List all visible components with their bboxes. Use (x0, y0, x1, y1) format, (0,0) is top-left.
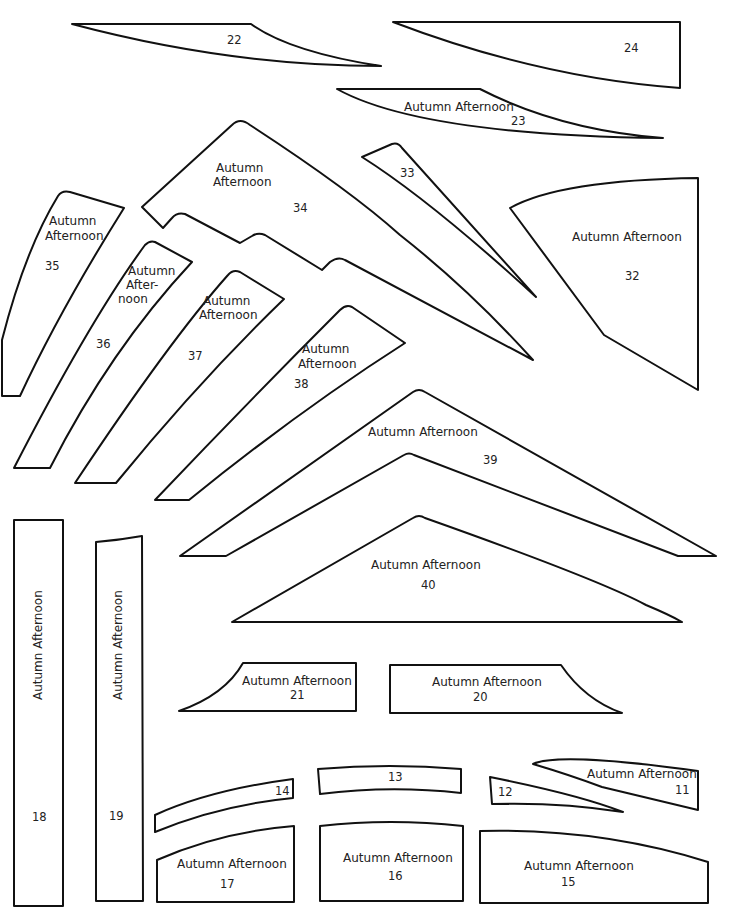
piece-18-number: 18 (32, 810, 47, 824)
piece-36-label-line1: Autumn (128, 264, 175, 278)
piece-23: Autumn Afternoon 23 (337, 89, 663, 138)
piece-36-label-line3: noon (118, 292, 148, 306)
pattern-sheet: 22 24 Autumn Afternoon 23 Autumn Afterno… (0, 0, 731, 918)
piece-14: 14 (155, 779, 293, 832)
piece-37-label-line1: Autumn (203, 294, 250, 308)
piece-34-label-line1: Autumn (216, 161, 263, 175)
piece-32-outline (510, 178, 698, 390)
piece-21: Autumn Afternoon 21 (179, 663, 356, 711)
piece-35-label-line1: Autumn (49, 214, 96, 228)
piece-24-number: 24 (624, 41, 639, 55)
piece-11-label: Autumn Afternoon (587, 767, 697, 781)
piece-15-number: 15 (561, 875, 576, 889)
piece-22: 22 (72, 24, 381, 66)
piece-14-outline (155, 779, 293, 832)
piece-23-label: Autumn Afternoon (404, 100, 514, 114)
piece-38-number: 38 (294, 377, 309, 391)
piece-24: 24 (393, 22, 680, 88)
piece-23-number: 23 (511, 114, 526, 128)
piece-15: Autumn Afternoon 15 (480, 831, 708, 903)
piece-18-outline (14, 520, 63, 906)
piece-16-label: Autumn Afternoon (343, 851, 453, 865)
piece-39-label: Autumn Afternoon (368, 425, 478, 439)
piece-16: Autumn Afternoon 16 (320, 822, 463, 901)
piece-11-number: 11 (675, 783, 690, 797)
piece-38-label-line1: Autumn (302, 342, 349, 356)
piece-19-number: 19 (109, 809, 124, 823)
piece-20-number: 20 (473, 690, 488, 704)
piece-36-number: 36 (96, 337, 111, 351)
piece-40-number: 40 (421, 578, 436, 592)
piece-13: 13 (318, 766, 461, 794)
piece-21-number: 21 (290, 688, 305, 702)
piece-36-label-line2: After- (126, 278, 158, 292)
piece-22-number: 22 (227, 33, 242, 47)
piece-33-number: 33 (400, 166, 415, 180)
piece-37-label-line2: Afternoon (199, 308, 258, 322)
piece-38-label-line2: Afternoon (298, 357, 357, 371)
piece-20-outline (390, 665, 622, 713)
piece-16-number: 16 (388, 869, 403, 883)
piece-35-label-line2: Afternoon (45, 229, 104, 243)
piece-12-number: 12 (498, 785, 513, 799)
piece-13-number: 13 (388, 770, 403, 784)
piece-34-number: 34 (293, 201, 308, 215)
piece-21-label: Autumn Afternoon (242, 674, 352, 688)
piece-34-label-line2: Afternoon (213, 175, 272, 189)
piece-20: Autumn Afternoon 20 (390, 665, 622, 713)
piece-17-label: Autumn Afternoon (177, 857, 287, 871)
piece-32-label: Autumn Afternoon (572, 230, 682, 244)
piece-15-label: Autumn Afternoon (524, 859, 634, 873)
piece-37-number: 37 (188, 349, 203, 363)
piece-17-number: 17 (220, 877, 235, 891)
piece-18-label: Autumn Afternoon (31, 590, 45, 700)
piece-20-label: Autumn Afternoon (432, 675, 542, 689)
piece-40-label: Autumn Afternoon (371, 558, 481, 572)
piece-17: Autumn Afternoon 17 (157, 826, 294, 902)
piece-19-label: Autumn Afternoon (111, 590, 125, 700)
piece-14-number: 14 (275, 784, 290, 798)
piece-39-number: 39 (483, 453, 498, 467)
piece-24-outline (393, 22, 680, 88)
piece-18: Autumn Afternoon 18 (14, 520, 63, 906)
pattern-pieces-canvas: 22 24 Autumn Afternoon 23 Autumn Afterno… (0, 0, 731, 918)
piece-19: Autumn Afternoon 19 (96, 536, 143, 901)
piece-35-number: 35 (45, 259, 60, 273)
piece-32: Autumn Afternoon 32 (510, 178, 698, 390)
piece-32-number: 32 (625, 269, 640, 283)
